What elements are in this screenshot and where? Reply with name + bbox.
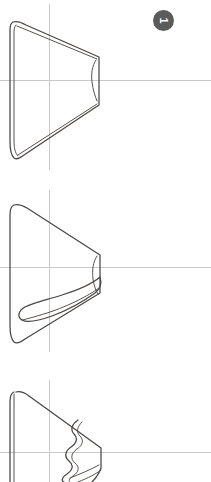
panel-3-axes (0, 380, 211, 482)
figure-panel-3: 3 (0, 360, 211, 482)
panel-3-drawing (0, 360, 211, 482)
wedge-left-edge (10, 392, 14, 482)
wedge-upper-edge (16, 392, 101, 482)
panel-1-drawing (0, 0, 211, 180)
figure-sheet: 1 2 (0, 0, 211, 482)
lower-fold-line (18, 104, 97, 155)
right-tip-notch (93, 256, 98, 294)
figure-panel-1: 1 (0, 0, 211, 180)
panel-3-contours (10, 392, 101, 482)
wedge-outline (10, 22, 99, 159)
panel-number-badge-1: 1 (153, 10, 174, 31)
figure-panel-2: 2 (0, 180, 211, 360)
wedge-outline (10, 205, 100, 343)
internal-loop (19, 277, 101, 321)
panel-2-axes (0, 190, 211, 352)
panel-1-axes (0, 4, 211, 170)
panel-1-contours (10, 22, 99, 159)
panel-2-contours (10, 205, 101, 343)
panel-2-drawing (0, 180, 211, 360)
left-rim-inner-line (14, 25, 18, 156)
panel-number-label: 1 (153, 10, 174, 31)
upper-fold-line (17, 26, 97, 59)
lower-fold-line-a (70, 465, 99, 478)
